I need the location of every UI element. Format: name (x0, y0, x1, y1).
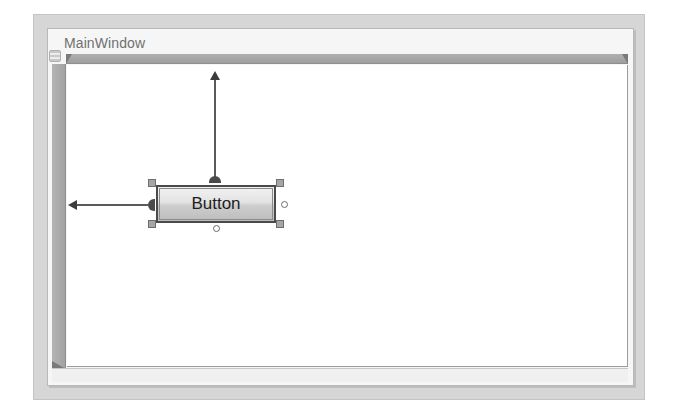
window-title: MainWindow (64, 35, 145, 51)
grid-icon[interactable] (49, 50, 61, 62)
resize-handle-top-right[interactable] (276, 179, 284, 187)
right-anchor-toggle-icon[interactable] (281, 201, 288, 208)
top-grid-ruler[interactable] (66, 54, 628, 64)
left-grid-ruler[interactable] (52, 64, 66, 369)
arrow-left-icon (68, 200, 77, 210)
resize-handle-bottom-right[interactable] (276, 220, 284, 228)
top-margin-line (214, 78, 216, 179)
top-anchor-icon[interactable] (209, 176, 221, 183)
left-anchor-icon[interactable] (148, 199, 155, 211)
arrow-up-icon (210, 71, 220, 80)
window-content-canvas[interactable] (67, 65, 628, 367)
window-bottom-edge (52, 368, 628, 382)
resize-handle-bottom-left[interactable] (148, 220, 156, 228)
resize-handle-top-left[interactable] (148, 179, 156, 187)
selected-button-control[interactable]: Button (156, 185, 276, 223)
left-margin-line (76, 204, 148, 206)
bottom-anchor-toggle-icon[interactable] (213, 225, 220, 232)
button-label: Button (191, 194, 240, 214)
